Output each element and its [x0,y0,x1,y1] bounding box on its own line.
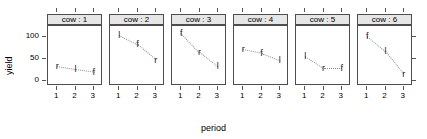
x-axis-tick-label: 3 [212,92,222,100]
x-axis-tick-label: 1 [51,92,61,100]
connector-line [305,56,324,69]
y-axis-tick-50 [42,58,46,59]
y-axis-tick-label: 100 [15,32,39,40]
data-point-marker: f [260,48,263,57]
panel-strip-label: cow : 1 [47,14,102,25]
connector-line [385,51,404,74]
x-axis-tick-1 [366,86,367,90]
x-axis-tick-3 [403,86,404,90]
data-point-marker: r [56,62,59,71]
panel-cow-6: cow : 6flr123 [357,14,412,104]
panel-top-tick-2 [199,8,200,12]
data-point-marker: f [180,28,183,37]
panel-top-tick-3 [403,8,404,12]
y-axis-tick-0 [42,80,46,81]
x-axis-tick-2 [385,86,386,90]
y-axis-tick-label: 0 [15,76,39,84]
x-axis-tick-label: 2 [380,92,390,100]
data-point-marker: r [322,64,325,73]
panel-top-tick-2 [323,8,324,12]
panel-strip-label: cow : 5 [295,14,350,25]
x-axis-tick-3 [155,86,156,90]
x-axis-tick-label: 3 [150,92,160,100]
data-point-marker: r [198,47,201,56]
connector-line [199,52,218,67]
panel-top-tick-1 [304,8,305,12]
panel-plot-area: lfr [109,25,164,85]
panel-top-tick-3 [217,8,218,12]
data-point-marker: f [93,67,96,76]
x-axis-tick-1 [242,86,243,90]
x-axis-tick-label: 3 [398,92,408,100]
data-point-marker: l [385,46,387,55]
data-point-marker: l [304,52,306,61]
data-point-marker: l [118,31,120,40]
data-point-marker: l [279,56,281,65]
connector-line [119,35,138,45]
panel-top-tick-3 [155,8,156,12]
data-point-marker: f [136,40,139,49]
x-axis-tick-label: 3 [88,92,98,100]
x-axis-tick-label: 2 [70,92,80,100]
panel-cow-5: cow : 5lrf123 [295,14,350,104]
trellis-plot: yield 050100 cow : 1rlf123cow : 2lfr123c… [0,0,427,139]
x-axis-tick-2 [137,86,138,90]
panel-top-tick-1 [366,8,367,12]
x-axis-tick-2 [75,86,76,90]
x-axis-tick-label: 2 [318,92,328,100]
panel-top-tick-2 [75,8,76,12]
panel-cow-1: cow : 1rlf123 [47,14,102,104]
panel-plot-area: frl [171,25,226,85]
x-axis-tick-3 [93,86,94,90]
connector-line [75,69,93,73]
y-axis-tick-label: 50 [15,54,39,62]
panel-strip-label: cow : 6 [357,14,412,25]
panel-top-tick-2 [137,8,138,12]
data-point-marker: l [217,62,219,71]
panel-strip-label: cow : 2 [109,14,164,25]
x-axis-tick-label: 3 [336,92,346,100]
x-axis-tick-3 [341,86,342,90]
panel-top-tick-3 [341,8,342,12]
x-axis-tick-2 [261,86,262,90]
connector-line [180,33,199,53]
x-axis-tick-3 [217,86,218,90]
x-axis-tick-label: 2 [132,92,142,100]
x-axis-tick-label: 1 [237,92,247,100]
connector-line [243,49,262,53]
panel-plot-area: rlf [47,25,102,85]
data-point-marker: r [402,69,405,78]
y-axis-right-tick-50 [412,58,416,59]
connector-line [57,66,75,70]
panel-top-tick-3 [93,8,94,12]
panel-cow-4: cow : 4rfl123 [233,14,288,104]
data-point-marker: r [242,45,245,54]
connector-line [137,44,156,60]
x-axis-tick-label: 3 [274,92,284,100]
connector-line [324,68,342,69]
x-axis-label: period [0,123,427,133]
connector-line [261,53,280,61]
data-point-marker: f [341,64,344,73]
x-axis-tick-label: 1 [299,92,309,100]
x-axis-tick-label: 2 [194,92,204,100]
panel-plot-area: flr [357,25,412,85]
connector-line [367,36,386,52]
panel-top-tick-2 [385,8,386,12]
data-point-marker: r [154,55,157,64]
panel-top-tick-1 [56,8,57,12]
panel-strip-label: cow : 3 [171,14,226,25]
panel-top-tick-1 [118,8,119,12]
data-point-marker: f [366,32,369,41]
x-axis-tick-label: 1 [361,92,371,100]
x-axis-tick-1 [56,86,57,90]
x-axis-tick-1 [180,86,181,90]
panel-cow-2: cow : 2lfr123 [109,14,164,104]
x-axis-tick-label: 1 [175,92,185,100]
panel-top-tick-3 [279,8,280,12]
y-axis-label: yield [2,44,16,88]
panel-top-tick-1 [180,8,181,12]
x-axis-tick-3 [279,86,280,90]
x-axis-tick-1 [118,86,119,90]
panel-cow-3: cow : 3frl123 [171,14,226,104]
